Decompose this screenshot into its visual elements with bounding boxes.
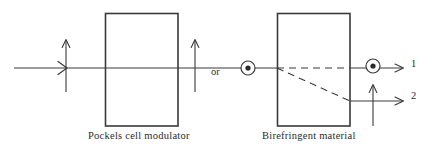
birefringent-material-caption: Birefringent material: [262, 130, 356, 141]
pockels-cell-modulator-box: [106, 14, 179, 127]
or-state-circle-dot-icon: [241, 61, 255, 75]
beam-1-label: 1: [411, 58, 416, 69]
or-label: or: [211, 66, 220, 77]
pockels-cell-modulator-caption: Pockels cell modulator: [88, 130, 190, 141]
input-beam: [14, 62, 105, 75]
beam-2-label: 2: [411, 90, 416, 101]
beam-1-circle-dot-icon: [366, 59, 380, 73]
birefringent-material-box: [278, 14, 351, 127]
optics-diagram-figure: or 1 2 Pockels cell modulator Birefringe…: [0, 0, 432, 150]
extraordinary-ray-dashed: [277, 68, 350, 101]
